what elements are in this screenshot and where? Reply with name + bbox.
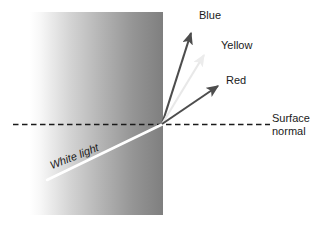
blue-ray-arrow (162, 33, 191, 124)
red-ray-arrow (162, 86, 218, 124)
blue-ray-label: Blue (199, 9, 221, 21)
surface-normal-label: Surface normal (272, 112, 324, 138)
yellow-ray-arrow (162, 55, 204, 124)
dispersion-diagram: Blue Yellow Red Surface normal White lig… (0, 0, 325, 228)
gradient-medium-block (30, 12, 163, 215)
yellow-ray-label: Yellow (221, 39, 252, 51)
red-ray-label: Red (226, 74, 246, 86)
surface-normal-label-line2: normal (272, 125, 306, 137)
surface-normal-label-line1: Surface (272, 112, 310, 124)
